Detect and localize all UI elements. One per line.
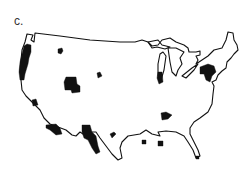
- lake-michigan-spot: [157, 72, 163, 84]
- gulf-coast-spot: [158, 141, 163, 146]
- us-map: [0, 0, 247, 183]
- new-york-pennsylvania-block: [200, 64, 216, 82]
- tennessee-spot: [161, 112, 172, 120]
- utah-colorado-block: [64, 77, 80, 93]
- lake-erie: [182, 64, 198, 78]
- mississippi-spot: [142, 140, 146, 144]
- lake-huron-michigan-peninsula: [168, 48, 184, 76]
- idaho-montana-spot: [58, 48, 63, 54]
- nevada-spot: [32, 99, 38, 106]
- west-texas-new-mexico-block: [82, 125, 100, 154]
- pacific-coast-strip: [19, 44, 31, 80]
- florida-tip-spot: [196, 156, 199, 159]
- texas-panhandle-spot: [110, 132, 116, 138]
- wyoming-spot: [97, 72, 102, 78]
- us-outline: [20, 32, 238, 160]
- southern-california-arizona-border: [46, 124, 62, 135]
